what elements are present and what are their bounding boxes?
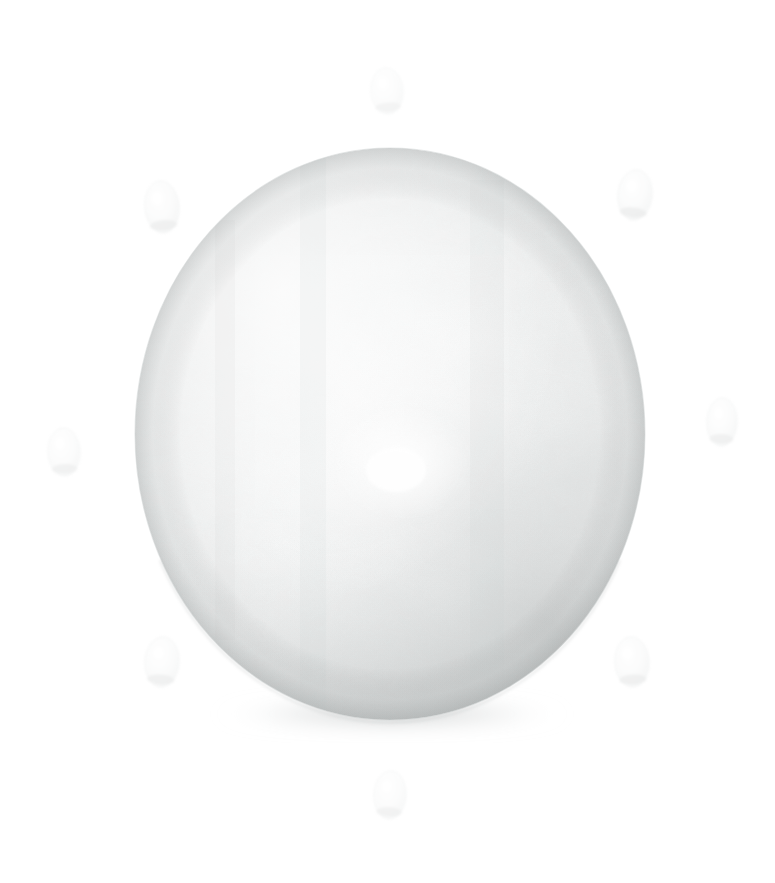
scene-svg <box>0 0 775 883</box>
image-canvas <box>0 0 775 883</box>
sphere-edge-vignette <box>135 148 645 720</box>
